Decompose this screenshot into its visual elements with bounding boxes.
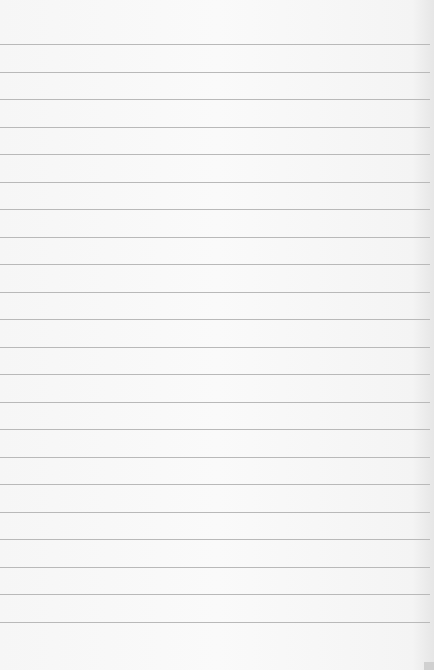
ruled-line xyxy=(0,567,430,568)
ruled-line xyxy=(0,402,430,403)
ruled-line xyxy=(0,264,430,265)
ruled-line xyxy=(0,154,430,155)
ruled-line xyxy=(0,44,430,45)
ruled-line xyxy=(0,484,430,485)
corner-mark xyxy=(424,662,434,670)
lined-paper xyxy=(0,0,434,670)
ruled-line xyxy=(0,457,430,458)
ruled-line xyxy=(0,539,430,540)
ruled-line xyxy=(0,374,430,375)
ruled-line xyxy=(0,429,430,430)
ruled-line xyxy=(0,292,430,293)
ruled-line xyxy=(0,182,430,183)
ruled-line xyxy=(0,347,430,348)
ruled-line xyxy=(0,237,430,238)
ruled-line xyxy=(0,72,430,73)
ruled-line xyxy=(0,127,430,128)
ruled-line xyxy=(0,512,430,513)
ruled-line xyxy=(0,99,430,100)
ruled-line xyxy=(0,319,430,320)
ruled-line xyxy=(0,622,430,623)
ruled-line xyxy=(0,594,430,595)
ruled-line xyxy=(0,209,430,210)
